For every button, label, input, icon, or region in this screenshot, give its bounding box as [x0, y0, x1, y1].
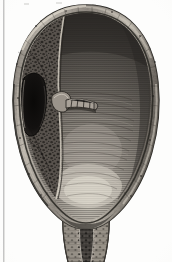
bladder-coronal-section-figure: [0, 0, 172, 262]
engraving-plate: [0, 0, 172, 262]
bladder-body: [0, 0, 172, 262]
